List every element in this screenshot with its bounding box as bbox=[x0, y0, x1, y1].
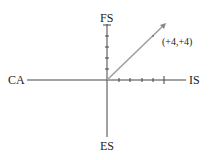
vector-point-marker bbox=[152, 35, 154, 37]
vector-label: (+4,+4) bbox=[162, 36, 192, 48]
axes-diagram: CA IS FS ES (+4,+4) bbox=[0, 0, 211, 160]
axis-label-bottom: ES bbox=[100, 139, 114, 153]
vector-arrow bbox=[107, 25, 164, 80]
axis-label-right: IS bbox=[189, 73, 200, 87]
axis-label-left: CA bbox=[8, 73, 25, 87]
axis-label-top: FS bbox=[100, 11, 113, 25]
